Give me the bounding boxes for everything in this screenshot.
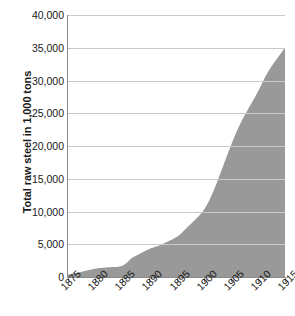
x-tick-label: 1890 xyxy=(139,267,164,292)
x-tick-label: 1875 xyxy=(58,267,83,292)
x-tick-label: 1880 xyxy=(85,267,110,292)
x-tick-label: 1910 xyxy=(248,267,273,292)
x-tick-label: 1895 xyxy=(167,267,192,292)
area-chart: Total raw steel in 1,000 tons 40,00035,0… xyxy=(0,0,295,316)
x-axis-tick-labels: 187518801885189018951900190519101915 xyxy=(0,0,295,316)
x-tick-label: 1905 xyxy=(221,267,246,292)
x-tick-label: 1900 xyxy=(194,267,219,292)
x-tick-label: 1885 xyxy=(112,267,137,292)
x-tick-label: 1915 xyxy=(275,267,295,292)
